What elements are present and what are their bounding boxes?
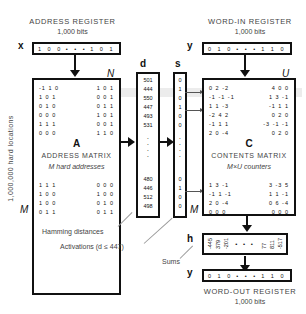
matrix-cell: 1 0 1 (97, 112, 114, 118)
word-out-bits-left: 0 1 0 (208, 273, 233, 279)
distance-cell: 531 (138, 121, 158, 130)
matrix-cell: -2 4 2 (209, 112, 229, 118)
matrix-cell: -1 1 0 (39, 85, 59, 91)
matrix-cell: 0 0 0 (209, 209, 226, 215)
matrix-cell: 1 0 1 (39, 94, 56, 100)
activation-cell: 0 (175, 94, 185, 103)
sums-var: h (187, 233, 193, 244)
activation-cell: 1 (175, 85, 185, 94)
distance-cell: 480 (138, 175, 158, 184)
contents-matrix-title: CONTENTS MATRIX (204, 152, 294, 159)
word-out-register: 0 1 0 • • • 1 1 0 (202, 269, 292, 282)
contents-matrix: 0 2 -24 0 0 -1 -1 -11 3 -1 1 1 -3-1 1 1 … (202, 78, 296, 216)
activation-arrow (185, 191, 201, 192)
matrix-cell: 0 2 0 (272, 112, 289, 118)
side-label: 1,000,000 hard locations (7, 109, 14, 209)
activation-cell: 0 (175, 193, 185, 202)
sum-cell: 379 (215, 238, 221, 249)
arrow-y-to-c (244, 55, 246, 71)
sums-leader (180, 245, 193, 258)
address-matrix-letter: A (34, 138, 119, 149)
distances-var: d (140, 58, 146, 69)
matrix-cell: 4 0 0 (272, 85, 289, 91)
matrix-cell: 3 -3 5 (269, 182, 289, 188)
address-register-bits: 1,000 bits (20, 28, 125, 35)
matrix-cell: 0 6 -4 (269, 200, 289, 206)
address-matrix-subtitle: M hard addresses (34, 163, 119, 170)
arrow-h-to-y (244, 256, 246, 266)
hamming-annotation: Hamming distances (42, 228, 103, 235)
matrix-cell: 1 0 0 (97, 191, 114, 197)
ellipsis: • • • (235, 241, 255, 247)
arrow-c-to-h (246, 214, 248, 226)
word-out-register-title: WORD-OUT REGISTER (195, 287, 305, 296)
sums-register: -445 379 -201 • • • 77 811 -517 (202, 233, 288, 255)
distance-cell: 498 (138, 202, 158, 211)
matrix-cell: 1 3 -1 (209, 182, 229, 188)
matrix-cell: 0 0 0 (39, 112, 56, 118)
matrix-cell: -1 1 1 (269, 103, 289, 109)
word-in-bits-right: 1 1 0 (261, 46, 286, 52)
matrix-cell: 1 1 0 (97, 130, 114, 136)
activation-cell: 1 (175, 184, 185, 193)
matrix-cell: 1 0 0 (39, 200, 56, 206)
word-in-register-var: y (187, 40, 193, 51)
distances-column: 501 444 550 447 493 531 ···· 480 446 512… (136, 72, 160, 218)
matrix-cell: 0 0 0 (272, 209, 289, 215)
matrix-cell: 0 0 1 (97, 94, 114, 100)
matrix-cell: 0 2 0 (272, 130, 289, 136)
matrix-cell: 2 0 -4 (209, 200, 229, 206)
address-matrix: -1 1 01 0 1 1 0 10 0 1 0 1 00 1 1 0 0 01… (32, 78, 121, 295)
ellipsis: • • • (236, 273, 257, 279)
sums-annotation: Sums (162, 258, 180, 265)
sum-cell: 77 (261, 238, 267, 249)
contents-matrix-m-label: M (190, 204, 198, 215)
matrix-cell: 1 0 0 (39, 191, 56, 197)
matrix-cell: 0 1 0 (39, 103, 56, 109)
matrix-cell: 0 0 1 (97, 121, 114, 127)
address-bits-right: 1 0 1 (90, 46, 115, 52)
contents-matrix-letter: C (204, 138, 294, 149)
vertical-ellipsis: ···· (138, 136, 158, 160)
matrix-cell: 1 1 1 (39, 182, 56, 188)
word-out-register-bits: 1,000 bits (195, 298, 305, 305)
word-in-bits-left: 0 1 0 (208, 46, 233, 52)
matrix-cell: 0 1 1 (39, 209, 56, 215)
distance-cell: 550 (138, 94, 158, 103)
word-out-register-var: y (187, 267, 193, 278)
distance-cell: 501 (138, 76, 158, 85)
arrow-a-to-d (119, 141, 129, 143)
matrix-cell: -1 1 -1 (209, 191, 232, 197)
sum-cell: 811 (269, 238, 275, 249)
distance-cell: 444 (138, 85, 158, 94)
address-register: 1 0 0 • • • 1 0 1 (32, 42, 121, 55)
vertical-ellipsis: ···· (175, 136, 185, 160)
arrow-d-to-s (158, 141, 168, 143)
matrix-cell: 1 1 -3 (209, 103, 229, 109)
contents-matrix-subtitle: M×U counters (204, 163, 294, 170)
matrix-cell: -3 -1 -1 (263, 121, 289, 127)
matrix-cell: 1 1 -1 (269, 191, 289, 197)
activations-var: s (175, 58, 181, 69)
word-in-register: 0 1 0 • • • 1 1 0 (202, 42, 292, 55)
matrix-cell: 1 3 -1 (269, 94, 289, 100)
distance-cell: 493 (138, 112, 158, 121)
address-bits-left: 1 0 0 (38, 46, 63, 52)
ellipsis: • • • (236, 46, 257, 52)
activation-cell: 0 (175, 121, 185, 130)
matrix-cell: 2 0 -4 (209, 130, 229, 136)
arrow-x-to-a (74, 55, 76, 71)
address-matrix-m-label: M (20, 204, 28, 215)
activation-cell: 1 (175, 103, 185, 112)
distance-cell: 447 (138, 103, 158, 112)
distance-cell: 512 (138, 193, 158, 202)
distance-cell: 446 (138, 184, 158, 193)
activation-cell: 0 (175, 202, 185, 211)
matrix-cell: -1 -1 -1 (209, 94, 235, 100)
activation-cell: 0 (175, 76, 185, 85)
sum-cell: -517 (277, 238, 283, 249)
matrix-cell: 1 1 1 (39, 121, 56, 127)
activation-cell: 0 (175, 175, 185, 184)
word-out-bits-right: 1 1 0 (261, 273, 286, 279)
activation-arrow (185, 110, 201, 111)
